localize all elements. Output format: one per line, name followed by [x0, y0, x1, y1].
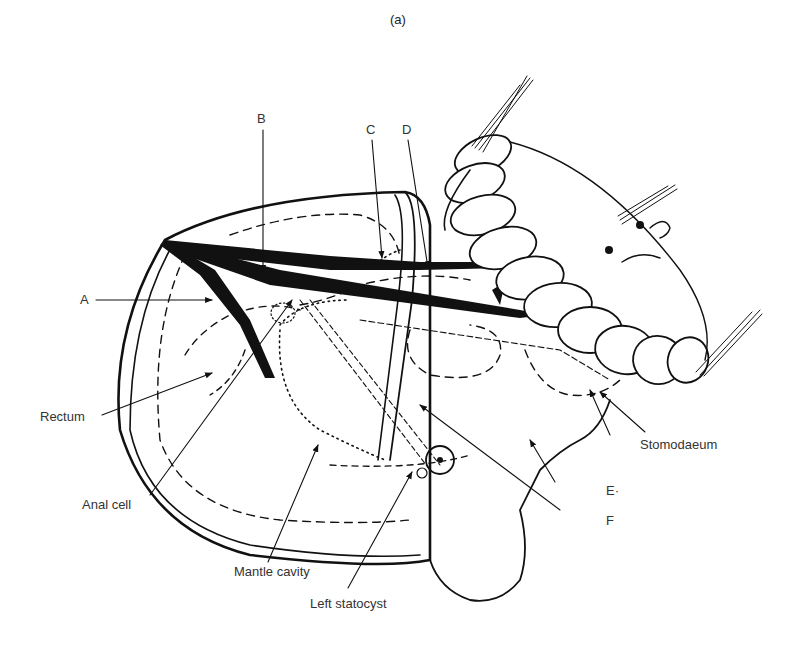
- mantle-dotted: [280, 300, 386, 460]
- anatomy-diagram: [0, 0, 799, 654]
- label-e: E·: [606, 484, 619, 497]
- label-b: B: [257, 112, 266, 125]
- label-stomodaeum: Stomodaeum: [640, 438, 717, 451]
- label-mantle-cavity: Mantle cavity: [234, 565, 310, 578]
- velum-lobes: [440, 127, 715, 391]
- label-anal-cell: Anal cell: [82, 498, 131, 511]
- label-c: C: [366, 123, 375, 136]
- foot-outline: [430, 400, 610, 601]
- label-a: A: [80, 293, 89, 306]
- label-left-statocyst: Left statocyst: [310, 597, 387, 610]
- label-f: F: [606, 514, 614, 527]
- label-d: D: [402, 123, 411, 136]
- label-rectum: Rectum: [40, 410, 85, 423]
